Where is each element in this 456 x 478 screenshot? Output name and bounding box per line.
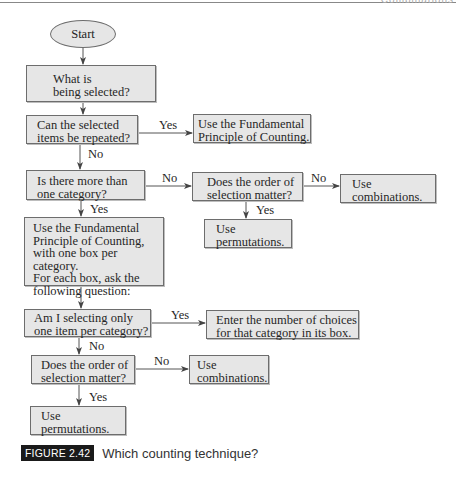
node-permutations-1: Use permutations.: [204, 219, 292, 248]
edge-label-more-yes: Yes: [90, 202, 108, 217]
node-fpc-simple: Use the Fundamental Principle of Countin…: [193, 114, 311, 143]
node-what-selected: What is being selected?: [26, 65, 156, 102]
node-combinations-1: Use combinations.: [340, 174, 436, 203]
edge-label-one-item-no: No: [89, 339, 104, 354]
figure-number-tag: FIGURE 2.42: [21, 445, 94, 461]
start-label: Start: [71, 27, 95, 42]
edge-label-more-no: No: [162, 171, 177, 186]
node-order-matters-2: Does the order of selection matter?: [31, 355, 135, 384]
node-fpc-boxes: Use the Fundamental Principle of Countin…: [24, 217, 164, 286]
edge-label-order2-no: No: [154, 354, 169, 369]
node-enter-choices: Enter the number of choices for that cat…: [206, 310, 359, 339]
node-repeated: Can the selected items be repeated?: [26, 115, 138, 144]
node-order-matters-1: Does the order of selection matter?: [192, 172, 303, 201]
edge-label-one-item-yes: Yes: [171, 308, 189, 323]
edge-label-order2-yes: Yes: [89, 390, 107, 405]
node-one-item: Am I selecting only one item per categor…: [24, 309, 151, 337]
edge-label-repeated-yes: Yes: [159, 118, 177, 133]
edge-label-repeated-no: No: [88, 147, 103, 162]
node-combinations-2: Use combinations.: [189, 355, 269, 384]
node-permutations-2: Use permutations.: [30, 406, 126, 435]
figure-title: Which counting technique?: [102, 446, 258, 461]
node-more-than-one: Is there more than one category?: [26, 170, 145, 200]
start-node: Start: [50, 20, 116, 48]
edge-label-order1-no: No: [311, 171, 326, 186]
edge-label-order1-yes: Yes: [256, 203, 274, 218]
figure-caption: FIGURE 2.42 Which counting technique?: [21, 445, 258, 461]
